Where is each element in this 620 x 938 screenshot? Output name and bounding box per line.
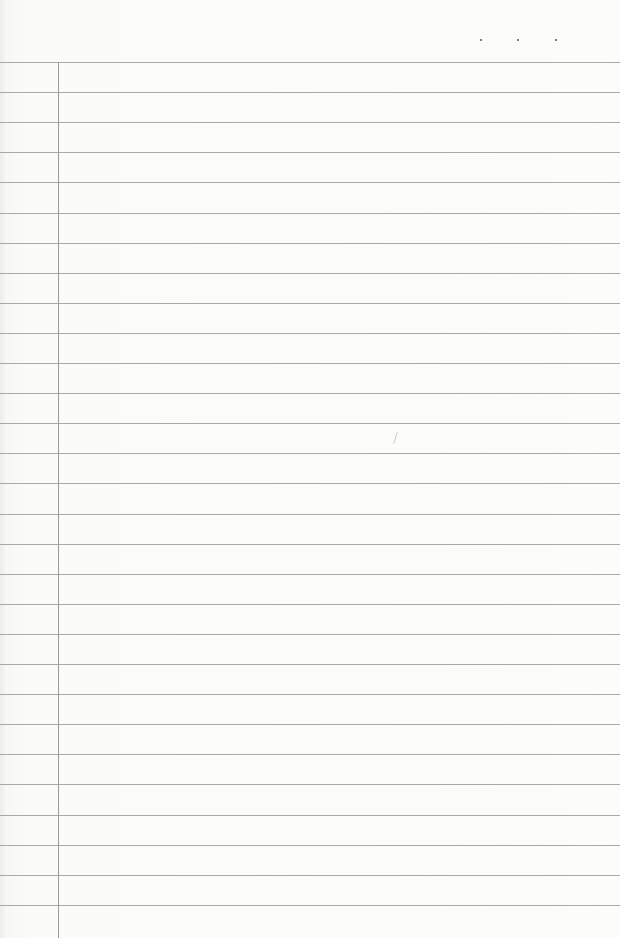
margin-line [58,62,59,938]
ruled-line [0,514,620,515]
dot-icon [555,39,557,41]
ruled-line [0,724,620,725]
ruled-line [0,784,620,785]
ruled-line [0,243,620,244]
ruled-line [0,634,620,635]
ruled-line [0,574,620,575]
ruled-line [0,875,620,876]
ruled-line [0,423,620,424]
ruled-line [0,363,620,364]
ruled-line [0,845,620,846]
notebook-paper [0,0,620,938]
ruled-line [0,604,620,605]
ruled-line [0,393,620,394]
ruled-line [0,182,620,183]
ruled-line [0,815,620,816]
ruled-line [0,213,620,214]
ruled-line [0,92,620,93]
ruled-line [0,333,620,334]
ruled-line [0,664,620,665]
ruled-line [0,303,620,304]
ruled-line [0,694,620,695]
ruled-line [0,905,620,906]
ruled-line [0,483,620,484]
ruled-line [0,754,620,755]
ruled-line [0,544,620,545]
dot-icon [517,39,519,41]
dot-icon [480,39,482,41]
pencil-mark [393,432,398,444]
ruled-line [0,62,620,63]
ruled-line [0,273,620,274]
ruled-line [0,122,620,123]
ruled-line [0,152,620,153]
ruled-line [0,453,620,454]
